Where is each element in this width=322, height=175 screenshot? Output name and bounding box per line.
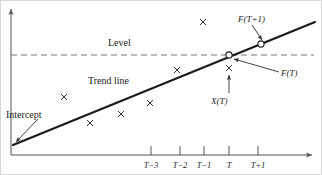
intercept-label: Intercept [6,110,42,120]
observation-marker [87,120,93,126]
x-axis-ticks [151,146,258,155]
x-tick-label: T+1 [251,160,266,170]
trend-line [13,22,315,145]
trend-line-label: Trend line [88,76,129,86]
x-tick-label: T−3 [144,160,159,170]
annotation-arrows [16,25,279,142]
x-tick-label: T [227,160,232,170]
x-tick-label: T−2 [173,160,188,170]
observation-markers [61,19,232,126]
x-tick-label: T−1 [197,160,212,170]
level-label: Level [108,38,131,48]
chart-canvas [0,0,322,175]
ftp1-arrow [252,25,262,40]
forecast-current-label: F(T) [281,69,298,78]
observation-marker [200,19,206,25]
observation-current-label: X(T) [211,97,228,106]
forecast-point-ft [226,52,232,58]
forecast-point-ftp1 [258,41,264,47]
observation-marker-xt [226,65,232,71]
forecast-trend-chart: Level Trend line Intercept F(T+1) F(T) X… [0,0,322,175]
forecast-next-label: F(T+1) [238,15,265,24]
observation-marker [61,94,67,100]
observation-marker [118,111,124,117]
ft-arrow [234,59,279,72]
figure-border [1,1,322,175]
observation-marker [147,100,153,106]
observation-marker [174,67,180,73]
